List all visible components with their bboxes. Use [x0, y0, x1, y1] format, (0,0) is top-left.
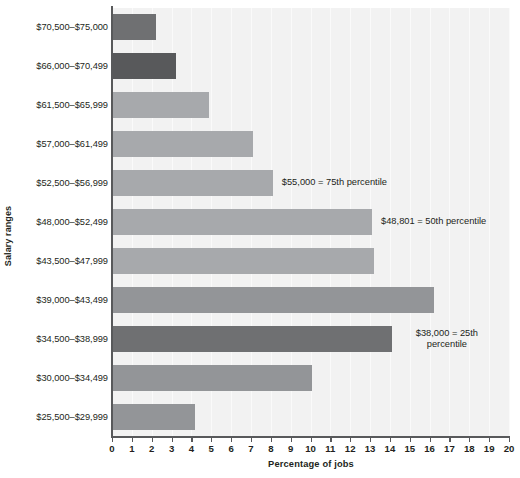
gridline — [509, 8, 510, 436]
bar — [112, 404, 195, 430]
x-axis-tick-mark — [112, 438, 113, 442]
x-axis-tick-label: 18 — [464, 443, 475, 454]
y-axis-tick-label: $34,500–$38,999 — [14, 334, 108, 344]
y-axis-tick-label: $25,500–$29,999 — [14, 412, 108, 422]
x-axis-tick-mark — [152, 438, 153, 442]
gridline — [489, 8, 490, 436]
bar — [112, 92, 209, 118]
y-axis-title-text: Salary ranges — [3, 206, 13, 266]
x-axis-tick-label: 17 — [444, 443, 455, 454]
x-axis-tick-label: 9 — [288, 443, 293, 454]
x-axis-tick-mark — [350, 438, 351, 442]
y-axis-tick-label: $61,500–$65,999 — [14, 100, 108, 110]
percentile-annotation: $38,000 = 25thpercentile — [401, 328, 493, 350]
x-axis-tick-mark — [291, 438, 292, 442]
bar — [112, 287, 434, 313]
bar — [112, 365, 312, 391]
x-axis-tick-mark — [271, 438, 272, 442]
x-axis-tick-mark — [410, 438, 411, 442]
x-axis-tick-label: 16 — [424, 443, 435, 454]
y-axis-tick-label: $57,000–$61,499 — [14, 139, 108, 149]
bar-chart: Salary ranges $70,500–$75,000$66,000–$70… — [0, 0, 520, 478]
bar — [112, 209, 372, 235]
x-axis-tick-label: 15 — [404, 443, 415, 454]
x-axis-tick-mark — [390, 438, 391, 442]
x-axis-tick-mark — [132, 438, 133, 442]
x-axis-tick-label: 14 — [385, 443, 396, 454]
bar — [112, 53, 176, 79]
y-axis-tick-label: $30,000–$34,499 — [14, 373, 108, 383]
bar — [112, 326, 392, 352]
x-axis-tick-mark — [311, 438, 312, 442]
y-axis-tick-label: $39,000–$43,499 — [14, 295, 108, 305]
y-axis-tick-label: $70,500–$75,000 — [14, 22, 108, 32]
x-axis-tick-label: 6 — [228, 443, 233, 454]
x-axis-tick-label: 1 — [129, 443, 134, 454]
bar — [112, 248, 374, 274]
bar — [112, 131, 253, 157]
annotation-line: $55,000 = 75th percentile — [282, 177, 387, 187]
percentile-annotation: $55,000 = 75th percentile — [282, 177, 387, 188]
y-axis-tick-label: $48,000–$52,499 — [14, 217, 108, 227]
x-axis-tick-label: 12 — [345, 443, 356, 454]
x-axis-tick-mark — [172, 438, 173, 442]
bar — [112, 170, 273, 196]
x-axis-tick-label: 3 — [169, 443, 174, 454]
y-axis-line — [111, 6, 113, 438]
x-axis-tick-label: 11 — [325, 443, 335, 454]
x-axis-tick-label: 0 — [109, 443, 114, 454]
y-axis-tick-label: $52,500–$56,999 — [14, 178, 108, 188]
x-axis-tick-label: 8 — [268, 443, 273, 454]
x-axis-tick-mark — [191, 438, 192, 442]
x-axis-title: Percentage of jobs — [112, 459, 510, 469]
y-axis-tick-label: $66,000–$70,499 — [14, 61, 108, 71]
x-axis-tick-label: 4 — [189, 443, 194, 454]
x-axis-tick-label: 5 — [209, 443, 214, 454]
x-axis-tick-label: 13 — [365, 443, 376, 454]
bar — [112, 14, 156, 40]
x-axis-tick-label: 19 — [484, 443, 495, 454]
y-axis-tick-label: $43,500–$47,999 — [14, 256, 108, 266]
x-axis-tick-mark — [430, 438, 431, 442]
x-axis-tick-label: 7 — [248, 443, 253, 454]
x-axis-tick-mark — [251, 438, 252, 442]
x-axis-tick-mark — [469, 438, 470, 442]
x-axis-tick-mark — [370, 438, 371, 442]
plot-area: $55,000 = 75th percentile$48,801 = 50th … — [112, 8, 510, 436]
percentile-annotation: $48,801 = 50th percentile — [381, 216, 486, 227]
x-axis-tick-mark — [489, 438, 490, 442]
x-axis-tick-label: 2 — [149, 443, 154, 454]
annotation-line: $38,000 = 25th — [416, 328, 478, 338]
x-axis-tick-mark — [330, 438, 331, 442]
y-axis-tick-labels: $70,500–$75,000$66,000–$70,499$61,500–$6… — [14, 8, 108, 436]
x-axis-tick-mark — [211, 438, 212, 442]
x-axis-tick-mark — [449, 438, 450, 442]
annotation-line: percentile — [427, 339, 467, 349]
x-axis-tick-label: 20 — [504, 443, 515, 454]
x-axis-tick-labels: 01234567891011121314151617181920 — [112, 438, 510, 458]
x-axis-tick-label: 10 — [305, 443, 316, 454]
x-axis-tick-mark — [231, 438, 232, 442]
x-axis-tick-mark — [509, 438, 510, 442]
annotation-line: $48,801 = 50th percentile — [381, 216, 486, 226]
